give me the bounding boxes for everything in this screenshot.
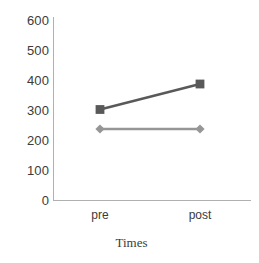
diamond-marker [95, 124, 104, 133]
diamond-marker [195, 124, 204, 133]
line-chart: 600 500 400 300 200 100 0 pre post Times [0, 0, 259, 263]
square-marker [196, 80, 205, 89]
series-1-group [96, 80, 205, 114]
series-1-line [100, 84, 200, 110]
plot-area [0, 0, 259, 263]
square-marker [96, 105, 105, 114]
series-2-group [95, 124, 204, 133]
